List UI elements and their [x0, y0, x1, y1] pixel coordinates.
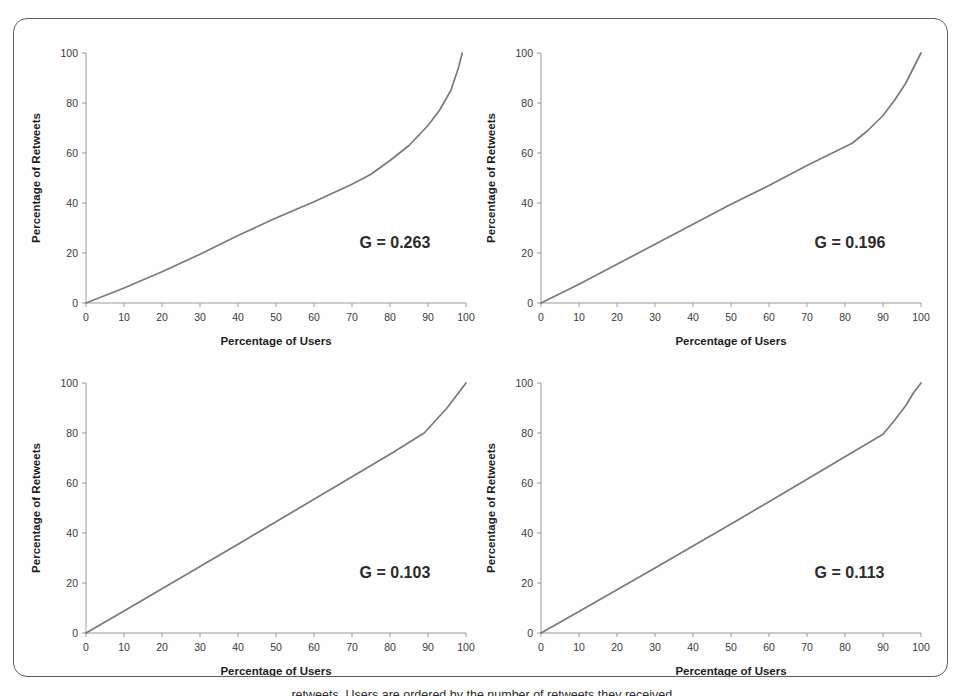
- x-tick-label: 10: [573, 311, 585, 323]
- lorenz-chart-panel-d: 0204060801000102030405060708090100Percen…: [469, 351, 936, 677]
- y-tick-label: 0: [72, 627, 78, 639]
- x-tick-label: 80: [839, 311, 851, 323]
- x-tick-label: 50: [725, 641, 737, 653]
- lorenz-curve: [86, 383, 466, 633]
- lorenz-curve: [541, 383, 921, 633]
- y-tick-label: 60: [521, 147, 533, 159]
- x-tick-label: 0: [83, 641, 89, 653]
- y-axis-title: Percentage of Retweets: [30, 443, 42, 573]
- x-tick-label: 50: [725, 311, 737, 323]
- y-tick-label: 80: [66, 427, 78, 439]
- y-tick-label: 100: [515, 47, 533, 59]
- y-tick-label: 60: [66, 477, 78, 489]
- x-tick-label: 80: [384, 641, 396, 653]
- x-tick-label: 60: [763, 641, 775, 653]
- y-axis-title: Percentage of Retweets: [485, 113, 497, 243]
- lorenz-curve: [86, 53, 462, 303]
- x-tick-label: 100: [912, 311, 930, 323]
- y-tick-label: 100: [60, 47, 78, 59]
- y-tick-label: 40: [521, 197, 533, 209]
- y-tick-label: 60: [66, 147, 78, 159]
- y-tick-label: 100: [60, 377, 78, 389]
- x-tick-label: 100: [912, 641, 930, 653]
- x-tick-label: 90: [422, 311, 434, 323]
- x-tick-label: 20: [611, 311, 623, 323]
- lorenz-chart-panel-c: 0204060801000102030405060708090100Percen…: [14, 351, 481, 677]
- figure-frame: 0204060801000102030405060708090100Percen…: [13, 18, 948, 677]
- x-tick-label: 90: [422, 641, 434, 653]
- lorenz-chart-panel-b: 0204060801000102030405060708090100Percen…: [469, 21, 936, 351]
- chart-svg-panel-b: 0204060801000102030405060708090100Percen…: [469, 21, 936, 351]
- x-tick-label: 20: [156, 311, 168, 323]
- x-axis-title: Percentage of Users: [220, 665, 331, 677]
- lorenz-chart-panel-a: 0204060801000102030405060708090100Percen…: [14, 21, 481, 351]
- x-axis-title: Percentage of Users: [220, 335, 331, 347]
- x-tick-label: 30: [194, 311, 206, 323]
- y-axis-title: Percentage of Retweets: [485, 443, 497, 573]
- x-tick-label: 40: [687, 311, 699, 323]
- x-tick-label: 0: [538, 641, 544, 653]
- x-axis-title: Percentage of Users: [675, 665, 786, 677]
- chart-svg-panel-d: 0204060801000102030405060708090100Percen…: [469, 351, 936, 677]
- x-tick-label: 20: [611, 641, 623, 653]
- y-tick-label: 0: [527, 297, 533, 309]
- x-tick-label: 60: [763, 311, 775, 323]
- x-tick-label: 30: [194, 641, 206, 653]
- x-tick-label: 80: [384, 311, 396, 323]
- x-tick-label: 70: [346, 641, 358, 653]
- y-tick-label: 0: [72, 297, 78, 309]
- panel-grid: 0204060801000102030405060708090100Percen…: [14, 19, 947, 676]
- x-tick-label: 90: [877, 311, 889, 323]
- x-tick-label: 10: [118, 311, 130, 323]
- x-tick-label: 0: [83, 311, 89, 323]
- gini-annotation: G = 0.113: [815, 564, 885, 581]
- lorenz-curve: [541, 53, 921, 303]
- x-tick-label: 70: [346, 311, 358, 323]
- x-tick-label: 80: [839, 641, 851, 653]
- gini-annotation: G = 0.263: [360, 234, 431, 251]
- chart-svg-panel-c: 0204060801000102030405060708090100Percen…: [14, 351, 481, 677]
- x-tick-label: 40: [687, 641, 699, 653]
- y-tick-label: 80: [521, 427, 533, 439]
- gini-annotation: G = 0.196: [815, 234, 886, 251]
- y-tick-label: 20: [66, 577, 78, 589]
- x-tick-label: 10: [118, 641, 130, 653]
- x-axis-title: Percentage of Users: [675, 335, 786, 347]
- y-tick-label: 100: [515, 377, 533, 389]
- x-tick-label: 40: [232, 641, 244, 653]
- y-tick-label: 0: [527, 627, 533, 639]
- x-tick-label: 50: [270, 641, 282, 653]
- chart-svg-panel-a: 0204060801000102030405060708090100Percen…: [14, 21, 481, 351]
- x-tick-label: 20: [156, 641, 168, 653]
- x-tick-label: 90: [877, 641, 889, 653]
- y-tick-label: 60: [521, 477, 533, 489]
- x-tick-label: 0: [538, 311, 544, 323]
- x-tick-label: 30: [649, 311, 661, 323]
- x-tick-label: 30: [649, 641, 661, 653]
- x-tick-label: 60: [308, 641, 320, 653]
- y-tick-label: 40: [521, 527, 533, 539]
- y-tick-label: 20: [521, 247, 533, 259]
- y-tick-label: 40: [66, 527, 78, 539]
- y-tick-label: 40: [66, 197, 78, 209]
- figure-caption-partial: retweets. Users are ordered by the numbe…: [0, 682, 967, 696]
- x-tick-label: 70: [801, 311, 813, 323]
- y-tick-label: 20: [521, 577, 533, 589]
- y-tick-label: 20: [66, 247, 78, 259]
- gini-annotation: G = 0.103: [360, 564, 431, 581]
- y-tick-label: 80: [66, 97, 78, 109]
- x-tick-label: 10: [573, 641, 585, 653]
- x-tick-label: 50: [270, 311, 282, 323]
- x-tick-label: 70: [801, 641, 813, 653]
- x-tick-label: 40: [232, 311, 244, 323]
- x-tick-label: 60: [308, 311, 320, 323]
- y-tick-label: 80: [521, 97, 533, 109]
- y-axis-title: Percentage of Retweets: [30, 113, 42, 243]
